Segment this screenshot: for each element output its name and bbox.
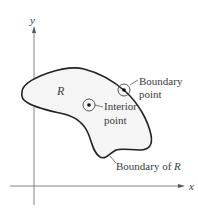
boundary-point-leader — [130, 80, 138, 85]
diagram-canvas — [0, 0, 198, 210]
region-r-outline — [22, 68, 152, 158]
boundary-point-label-line1: Boundary — [139, 75, 182, 87]
interior-point-label-line2: point — [104, 114, 127, 126]
region-label: R — [57, 85, 64, 97]
y-axis-arrow-icon — [32, 26, 36, 33]
boundary-caption: Boundary of R — [116, 160, 181, 172]
boundary-caption-var: R — [174, 160, 181, 172]
boundary-caption-text: Boundary of — [116, 160, 174, 172]
interior-point-dot — [87, 103, 91, 107]
y-axis-label: y — [30, 14, 35, 26]
interior-point-label-line1: Interior — [104, 100, 137, 112]
boundary-point-dot — [122, 88, 126, 92]
x-axis-label: x — [189, 180, 194, 192]
x-axis-arrow-icon — [178, 184, 185, 188]
boundary-point-label-line2: point — [139, 88, 162, 100]
